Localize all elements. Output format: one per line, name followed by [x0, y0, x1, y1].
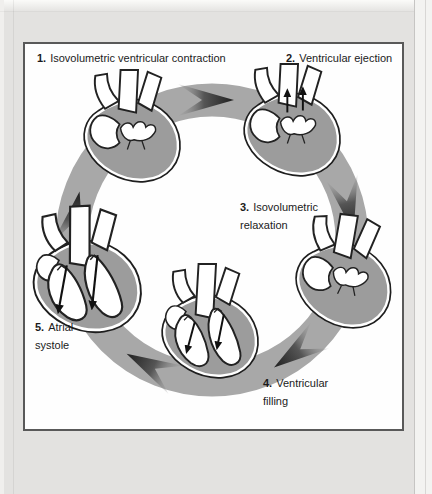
heart-stage-1-illustration: [86, 70, 178, 180]
stage-text-line2: filling: [263, 395, 328, 408]
cardiac-cycle-diagram: [0, 0, 432, 494]
stage-number: 4.: [263, 377, 272, 389]
stage-label-4: 4.Ventricular filling: [263, 377, 328, 408]
scanned-page: 1.Isovolumetric ventricular contraction …: [0, 0, 432, 494]
stage-label-3: 3.Isovolumetric relaxation: [240, 201, 318, 232]
stage-text: Atrial: [48, 321, 73, 333]
stage-text-line2: systole: [35, 339, 73, 352]
stage-label-1: 1.Isovolumetric ventricular contraction: [37, 52, 226, 65]
heart-stage-2-illustration: [246, 64, 338, 174]
stage-number: 2.: [286, 52, 295, 64]
stage-text: Ventricular ejection: [299, 52, 392, 64]
stage-text: Isovolumetric: [253, 201, 318, 213]
stage-label-5: 5.Atrial systole: [35, 321, 73, 352]
stage-number: 1.: [37, 52, 46, 64]
stage-label-2: 2.Ventricular ejection: [286, 52, 392, 65]
stage-number: 5.: [35, 321, 44, 333]
heart-stage-5-illustration: [32, 203, 141, 333]
stage-text: Ventricular: [276, 377, 328, 389]
stage-text-line2: relaxation: [240, 219, 318, 232]
heart-stage-4-illustration: [164, 264, 256, 376]
stage-number: 3.: [240, 201, 249, 213]
stage-text: Isovolumetric ventricular contraction: [50, 52, 225, 64]
